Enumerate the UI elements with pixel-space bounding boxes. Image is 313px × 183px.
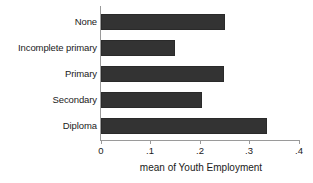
bar-chart: None Incomplete primary Primary Secondar… [0,0,313,183]
bar-diploma [101,118,267,134]
x-tick-label-3: .3 [237,145,261,156]
category-axis-labels: None Incomplete primary Primary Secondar… [0,0,97,140]
bar-primary [101,66,224,82]
x-tick-3 [249,140,250,144]
x-tick-label-0: 0 [89,145,113,156]
x-tick-label-1: .1 [138,145,162,156]
plot-area [101,8,301,138]
category-label-incomplete-primary: Incomplete primary [0,43,97,53]
x-axis-title: mean of Youth Employment [101,162,301,174]
x-tick-label-4: .4 [287,145,311,156]
bar-secondary [101,92,202,108]
category-label-primary: Primary [0,69,97,79]
x-tick-1 [150,140,151,144]
x-tick-label-2: .2 [188,145,212,156]
x-tick-0 [101,140,102,144]
category-label-secondary: Secondary [0,95,97,105]
bar-none [101,14,225,30]
x-tick-4 [299,140,300,144]
x-tick-2 [200,140,201,144]
category-label-none: None [0,17,97,27]
category-label-diploma: Diploma [0,121,97,131]
bar-incomplete-primary [101,40,175,56]
